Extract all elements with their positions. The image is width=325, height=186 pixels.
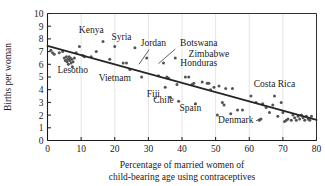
data-point [231, 87, 234, 90]
annotation-label-kenya: Kenya [79, 25, 105, 35]
y-tick-label: 10 [34, 9, 44, 19]
x-tick-label: 10 [76, 144, 86, 154]
data-point [49, 49, 52, 52]
x-tick-label: 40 [177, 144, 187, 154]
data-point [66, 60, 69, 63]
annotation-label-jordan: Jordan [141, 38, 167, 48]
data-point [125, 62, 128, 65]
data-point [241, 109, 244, 112]
annotation-label-honduras: Honduras [180, 58, 217, 68]
data-point [207, 82, 210, 85]
data-point [236, 109, 239, 112]
data-point [286, 117, 289, 120]
x-tick-label: 50 [211, 144, 221, 154]
data-point [101, 40, 104, 43]
data-point [162, 62, 165, 65]
data-point [164, 86, 167, 89]
data-point [140, 76, 143, 79]
data-point [192, 82, 195, 85]
y-tick-label: 7 [39, 47, 44, 57]
data-point [122, 62, 125, 65]
data-point [175, 83, 178, 86]
x-axis-title-line-1: Percentage of married women of [120, 160, 245, 170]
data-point [273, 95, 276, 98]
x-tick-label: 60 [245, 144, 255, 154]
annotation-label-denmark: Denmark [218, 115, 254, 125]
annotation-label-costa-rica: Costa Rica [254, 79, 296, 89]
y-tick-label: 5 [39, 72, 44, 82]
annotation-label-lesotho: Lesotho [57, 65, 88, 75]
y-tick-label: 8 [39, 34, 44, 44]
annotation-label-chile: Chile [153, 95, 174, 105]
data-point [72, 60, 75, 63]
y-tick-label: 9 [39, 22, 44, 32]
data-point [145, 56, 148, 59]
data-point [293, 116, 296, 119]
y-tick-label: 6 [39, 60, 44, 70]
data-point [290, 119, 293, 122]
y-tick-label: 3 [39, 98, 44, 108]
annotation-label-syria: Syria [111, 32, 132, 42]
data-point [223, 103, 226, 106]
data-point [58, 51, 61, 54]
x-tick-label: 30 [144, 144, 154, 154]
data-point [184, 76, 187, 79]
data-point [73, 56, 76, 59]
data-point [174, 56, 177, 59]
x-tick-label: 80 [312, 144, 322, 154]
data-point [53, 53, 56, 56]
data-point [212, 86, 215, 89]
x-tick-label: 20 [110, 144, 120, 154]
x-tick-label: 70 [278, 144, 288, 154]
data-point [113, 45, 116, 48]
data-point [187, 76, 190, 79]
y-tick-label: 0 [39, 136, 44, 146]
data-point [221, 101, 224, 104]
annotation-label-spain: Spain [180, 103, 202, 113]
annotation-label-vietnam: Vietnam [99, 73, 132, 83]
x-tick-label: 0 [45, 144, 50, 154]
data-point [303, 119, 306, 122]
annotation-label-botswana: Botswana [180, 38, 218, 48]
chart-background [0, 0, 325, 186]
data-point [271, 103, 274, 106]
data-point [276, 115, 279, 118]
data-point [70, 58, 73, 61]
data-point [65, 55, 68, 58]
data-point [295, 119, 298, 122]
data-point [224, 87, 227, 90]
x-axis-title-line-2: child-bearing age using contraceptives [109, 172, 256, 182]
data-point [249, 95, 252, 98]
data-point [280, 101, 283, 104]
data-point [298, 117, 301, 120]
data-point [95, 50, 98, 53]
births-vs-contraceptive-use-scatter-chart: 01020304050607080 012345678910 KenyaSyri… [0, 0, 325, 186]
y-axis-title: Births per woman [3, 43, 13, 111]
data-point [78, 45, 81, 48]
data-point [268, 111, 271, 114]
data-point [108, 58, 111, 61]
y-tick-label: 4 [39, 85, 44, 95]
y-tick-label: 1 [39, 123, 44, 133]
data-point [133, 46, 136, 49]
data-point [201, 81, 204, 84]
y-tick-label: 2 [39, 111, 44, 121]
scatter-plot-figure: 01020304050607080 012345678910 KenyaSyri… [0, 0, 325, 186]
data-point [217, 84, 220, 87]
